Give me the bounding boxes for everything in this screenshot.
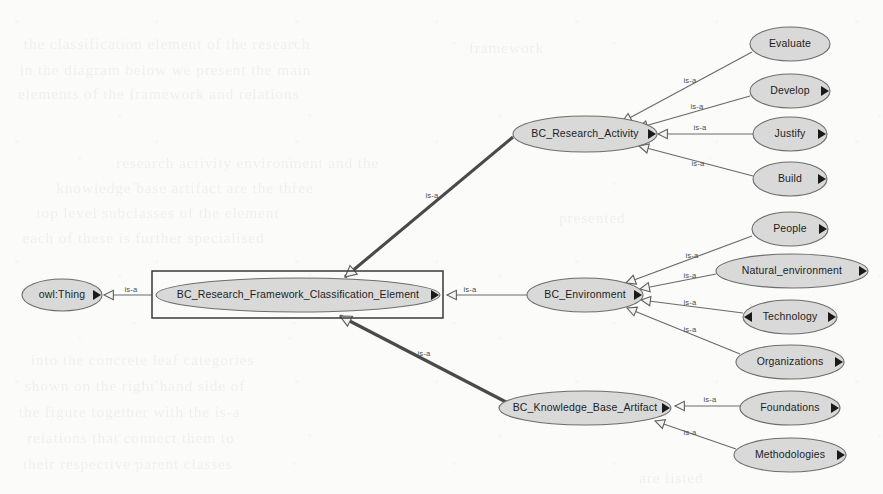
- thin-edge-layer: [108, 52, 753, 449]
- class-node-root_elem[interactable]: BC_Research_Framework_Classification_Ele…: [156, 278, 440, 312]
- node-label: Evaluate: [769, 37, 811, 49]
- ontology-diagram-canvas: the classification element of the resear…: [0, 0, 883, 494]
- node-label: Justify: [775, 127, 806, 139]
- class-node-technology[interactable]: Technology: [743, 300, 837, 334]
- edge-label-is-a: is-a: [463, 285, 477, 294]
- class-node-foundations[interactable]: Foundations: [740, 391, 840, 425]
- class-node-environment[interactable]: BC_Environment: [527, 278, 643, 312]
- edge-label-is-a: is-a: [683, 428, 697, 437]
- edge-label-is-a: is-a: [683, 298, 697, 307]
- class-node-build[interactable]: Build: [753, 162, 827, 196]
- node-label: BC_Environment: [544, 288, 625, 300]
- class-node-artifact[interactable]: BC_Knowledge_Base_Artifact: [499, 391, 671, 425]
- class-node-owl_thing[interactable]: owl:Thing: [22, 279, 102, 311]
- edge-label-is-a: is-a: [425, 191, 439, 200]
- edge-label-is-a: is-a: [703, 395, 717, 404]
- edge-label-is-a: is-a: [124, 285, 138, 294]
- thick-edge-layer: [340, 137, 513, 402]
- class-node-evaluate[interactable]: Evaluate: [750, 27, 830, 61]
- is-a-arrowhead: [658, 129, 667, 138]
- class-node-justify[interactable]: Justify: [753, 117, 827, 151]
- class-node-activity[interactable]: BC_Research_Activity: [513, 116, 657, 152]
- node-label: owl:Thing: [39, 288, 85, 300]
- class-node-people[interactable]: People: [752, 212, 828, 246]
- class-node-natural_env[interactable]: Natural_environment: [716, 254, 868, 288]
- edge-label-is-a: is-a: [417, 349, 431, 358]
- is-a-edge: [622, 52, 752, 122]
- is-a-arrowhead: [447, 290, 456, 299]
- node-label: BC_Research_Framework_Classification_Ele…: [177, 288, 419, 300]
- edge-label-is-a: is-a: [690, 102, 704, 111]
- is-a-arrowhead: [675, 401, 684, 410]
- edge-label-is-a: is-a: [691, 159, 705, 168]
- edge-label-is-a: is-a: [693, 123, 707, 132]
- node-label: Develop: [770, 84, 810, 96]
- edge-label-is-a: is-a: [683, 76, 697, 85]
- node-label: BC_Research_Activity: [531, 127, 639, 139]
- is-a-edge: [345, 137, 513, 277]
- edge-label-is-a: is-a: [685, 251, 699, 260]
- is-a-edge: [640, 274, 716, 289]
- node-layer: owl:ThingBC_Research_Framework_Classific…: [22, 27, 868, 472]
- is-a-arrowhead: [104, 290, 113, 299]
- node-label: BC_Knowledge_Base_Artifact: [513, 401, 658, 413]
- node-label: Organizations: [757, 355, 824, 367]
- edge-label-is-a: is-a: [683, 325, 697, 334]
- node-label: Build: [778, 172, 802, 184]
- class-node-develop[interactable]: Develop: [750, 74, 830, 108]
- node-label: Methodologies: [755, 448, 825, 460]
- class-node-organizations[interactable]: Organizations: [736, 345, 844, 379]
- class-node-methodologies[interactable]: Methodologies: [734, 438, 846, 472]
- node-label: Foundations: [760, 401, 819, 413]
- node-label: Technology: [763, 310, 818, 322]
- is-a-edge: [340, 316, 506, 402]
- node-label: Natural_environment: [742, 264, 842, 276]
- node-label: People: [773, 222, 807, 234]
- ontology-graph: owl:ThingBC_Research_Framework_Classific…: [0, 0, 883, 494]
- edge-label-is-a: is-a: [683, 271, 697, 280]
